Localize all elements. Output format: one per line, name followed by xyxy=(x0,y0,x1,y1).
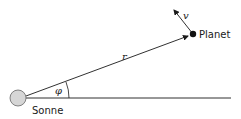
sun-circle xyxy=(10,90,26,106)
planet-dot xyxy=(190,31,196,37)
planet-label: Planet xyxy=(199,29,230,40)
sun-label: Sonne xyxy=(32,105,63,116)
velocity-label: v xyxy=(183,10,189,21)
orbit-diagram: Sonne Planet r φ v xyxy=(0,0,241,119)
angle-label: φ xyxy=(55,85,62,96)
radius-vector xyxy=(26,36,188,96)
radius-label: r xyxy=(122,51,128,62)
angle-arc xyxy=(66,82,69,98)
